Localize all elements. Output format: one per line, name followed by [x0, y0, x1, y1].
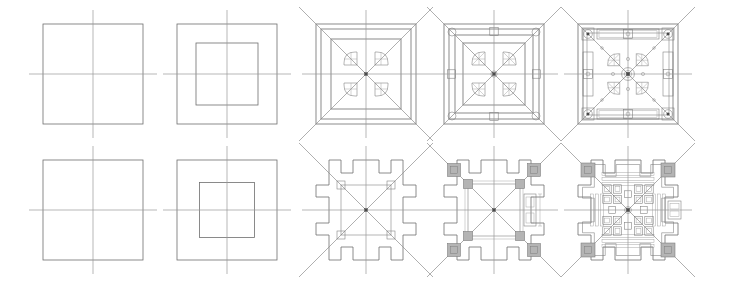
- panel-lower-3: Stepped perimeter with diagonals: [299, 143, 433, 277]
- inner-pier: [463, 231, 472, 240]
- corner-node: [667, 113, 670, 116]
- corner-pier: [581, 243, 595, 257]
- inner-pier: [463, 179, 472, 188]
- corner-pier: [448, 244, 461, 257]
- panel-lower-4: Corner piers and wall thickness: [427, 143, 561, 277]
- center-node: [626, 72, 629, 75]
- plan-grid-svg: Architectural plan development sequence …: [0, 0, 733, 288]
- panel-upper-4: Columns added at axes and corners: [427, 7, 561, 141]
- corner-pier: [528, 244, 541, 257]
- inner-pier: [515, 231, 524, 240]
- panel-lower-5: Completed plan with internal cells: [561, 143, 695, 277]
- center-node: [627, 209, 630, 212]
- corner-pier: [661, 163, 675, 177]
- corner-pier: [528, 164, 541, 177]
- corner-node: [587, 113, 590, 116]
- corner-node: [587, 33, 590, 36]
- corner-pier: [661, 243, 675, 257]
- corner-pier: [581, 163, 595, 177]
- diagram-root: Architectural plan development sequence …: [0, 0, 733, 288]
- center-node: [493, 73, 496, 76]
- panel-upper-5: Completed plan with walls and galleries: [561, 7, 695, 141]
- corner-node: [667, 33, 670, 36]
- inner-pier: [515, 179, 524, 188]
- center-node: [365, 209, 368, 212]
- corner-pier: [448, 164, 461, 177]
- center-node: [365, 73, 368, 76]
- diagram-background: [0, 0, 733, 288]
- center-node: [493, 209, 496, 212]
- panel-upper-3: Diagonals with quadrant chambers: [299, 7, 433, 141]
